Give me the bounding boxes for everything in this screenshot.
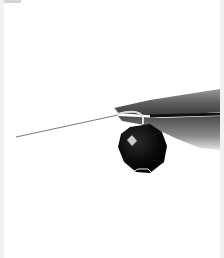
black-bead xyxy=(118,124,167,173)
photo-illustration xyxy=(0,0,224,258)
product-photo xyxy=(0,0,224,258)
